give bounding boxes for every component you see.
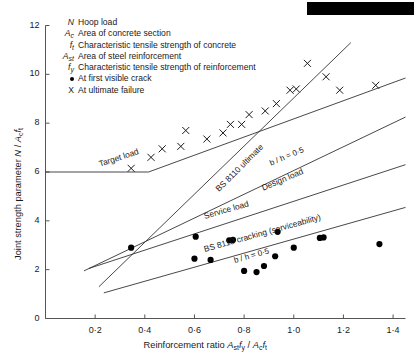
legend-row: At first visible crack bbox=[58, 73, 256, 84]
legend-row: ftCharacteristic tensile strength of con… bbox=[58, 40, 256, 51]
x-tick-label: 0·4 bbox=[125, 326, 165, 335]
data-point-dot bbox=[261, 263, 267, 269]
legend-row: AcArea of concrete section bbox=[58, 28, 256, 39]
legend-entry-text: Hoop load bbox=[78, 17, 256, 28]
data-point-cross bbox=[128, 165, 135, 172]
y-tick-label: 8 bbox=[12, 118, 40, 127]
data-point-dot bbox=[320, 234, 326, 240]
data-point-dot bbox=[272, 253, 278, 259]
legend-symbol-subscript: y bbox=[71, 66, 75, 73]
data-point-cross bbox=[220, 129, 227, 136]
data-point-cross bbox=[238, 121, 245, 128]
legend-row: NHoop load bbox=[58, 17, 256, 28]
legend-symbol: fy bbox=[58, 62, 78, 73]
legend-entry-text: Area of steel reinforcement bbox=[78, 51, 256, 62]
x-axis-title: Reinforcement ratio Astfy / Acft bbox=[144, 340, 267, 350]
legend-symbol: Ast bbox=[58, 51, 78, 62]
data-point-dot bbox=[253, 269, 259, 275]
x-tick-label: 0·6 bbox=[174, 326, 214, 335]
data-point-dot bbox=[241, 268, 247, 274]
data-point-cross bbox=[182, 127, 189, 134]
data-point-cross bbox=[159, 145, 166, 152]
data-point-dot bbox=[376, 241, 382, 247]
chart-legend: NHoop loadAcArea of concrete sectionftCh… bbox=[58, 17, 256, 96]
legend-entry-text: At ultimate failure bbox=[78, 85, 256, 96]
y-axis-title: Joint strength parameter N / Acft bbox=[13, 128, 23, 260]
dot-glyph bbox=[70, 77, 74, 81]
x-tick-label: 1·2 bbox=[323, 326, 363, 335]
data-point-cross bbox=[177, 143, 184, 150]
data-point-cross bbox=[323, 73, 330, 80]
legend-symbol-subscript: t bbox=[72, 44, 74, 51]
legend-row: AstArea of steel reinforcement bbox=[58, 51, 256, 62]
y-tick-label: 10 bbox=[12, 69, 40, 78]
data-point-dot bbox=[193, 234, 199, 240]
legend-symbol: Ac bbox=[58, 28, 78, 39]
legend-entry-text: At first visible crack bbox=[78, 73, 256, 84]
data-point-cross bbox=[262, 107, 269, 114]
legend-entry-text: Area of concrete section bbox=[78, 28, 256, 39]
x-tick-label: 0·8 bbox=[224, 326, 264, 335]
data-point-cross bbox=[246, 111, 253, 118]
legend-cross-marker-icon: X bbox=[58, 85, 78, 96]
legend-entry-text: Characteristic tensile strength of reinf… bbox=[78, 62, 256, 73]
data-point-cross bbox=[287, 87, 294, 94]
data-point-cross bbox=[273, 100, 280, 107]
legend-row: XAt ultimate failure bbox=[58, 85, 256, 96]
data-point-dot bbox=[128, 245, 134, 251]
x-tick-label: 1·0 bbox=[274, 326, 314, 335]
data-point-cross bbox=[293, 85, 300, 92]
legend-symbol-subscript: c bbox=[71, 32, 75, 39]
data-point-cross bbox=[227, 121, 234, 128]
legend-entry-text: Characteristic tensile strength of concr… bbox=[78, 40, 256, 51]
data-point-cross bbox=[336, 87, 343, 94]
y-tick-label: 0 bbox=[12, 314, 40, 323]
legend-dot-marker-icon bbox=[58, 73, 78, 84]
legend-symbol: ft bbox=[58, 40, 78, 51]
data-point-cross bbox=[203, 136, 210, 143]
chart-figure: 0246810120·20·40·60·81·01·21·4Target loa… bbox=[0, 0, 414, 362]
y-tick-label: 12 bbox=[12, 21, 40, 30]
legend-symbol-subscript: st bbox=[69, 55, 74, 62]
data-point-cross bbox=[304, 60, 311, 67]
x-tick-label: 0·2 bbox=[75, 326, 115, 335]
data-point-dot bbox=[291, 245, 297, 251]
data-point-dot bbox=[191, 256, 197, 262]
data-point-cross bbox=[148, 154, 155, 161]
legend-symbol: N bbox=[58, 17, 78, 28]
data-point-cross bbox=[372, 82, 379, 89]
x-tick-label: 1·4 bbox=[373, 326, 413, 335]
y-tick-label: 2 bbox=[12, 265, 40, 274]
data-point-dot bbox=[208, 257, 214, 263]
legend-row: fyCharacteristic tensile strength of rei… bbox=[58, 62, 256, 73]
